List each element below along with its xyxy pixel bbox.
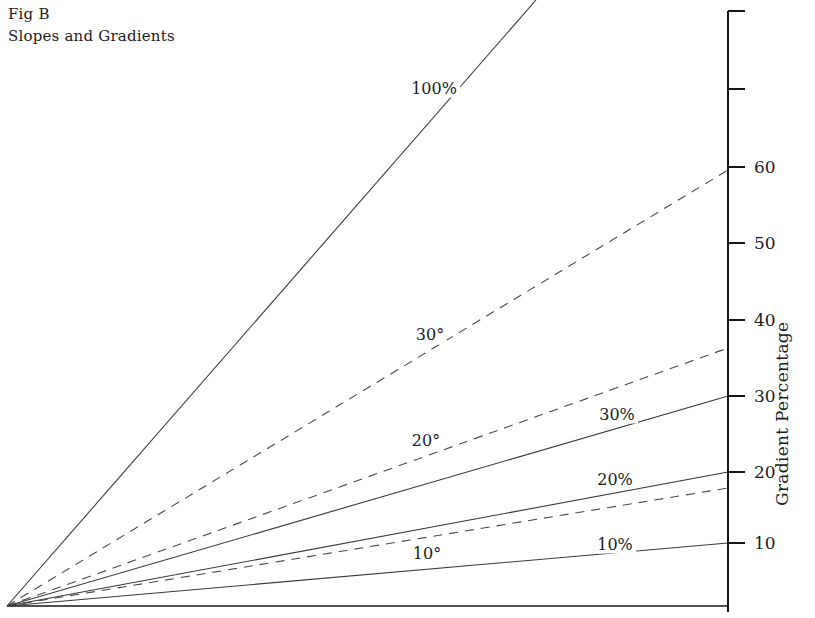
- label-20-degrees: 20°: [409, 431, 443, 450]
- gradient-axis-ticks: [728, 11, 745, 543]
- axis-tick-label-10: 10: [754, 533, 776, 553]
- label-10-percent: 10%: [594, 535, 636, 554]
- figure-title-block: Fig B Slopes and Gradients: [8, 4, 175, 48]
- label-20-percent: 20%: [594, 470, 636, 489]
- label-100-percent: 100%: [408, 79, 460, 98]
- figure-container: Fig B Slopes and Gradients 10 20 30 40 5…: [0, 0, 815, 618]
- label-10-degrees: 10°: [410, 544, 444, 563]
- label-30-degrees: 30°: [413, 325, 447, 344]
- figure-subtitle: Slopes and Gradients: [8, 26, 175, 48]
- figure-id-label: Fig B: [8, 4, 175, 26]
- axis-tick-label-60: 60: [754, 157, 776, 177]
- label-30-percent: 30%: [596, 405, 638, 424]
- gradient-percentage-axis-label: Gradient Percentage: [772, 266, 792, 506]
- axis-tick-label-50: 50: [754, 233, 776, 253]
